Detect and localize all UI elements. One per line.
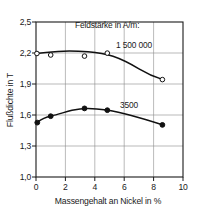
series-1500000-point-1 [48,53,53,58]
series-3500-point-3 [105,108,110,113]
x-ticklabel-2: 2 [63,182,68,192]
y-ticklabel-2.2: 2,2 [20,48,32,58]
series-1500000-point-2 [82,54,87,59]
series-3500-label: 3500 [120,100,139,110]
series-1500000-point-3 [105,51,110,56]
flux-density-nickel-chart: 2,5 2,2 1,9 1,6 1,3 1,0 0 2 4 6 8 10 Mas… [0,0,202,213]
chart-figure: 2,5 2,2 1,9 1,6 1,3 1,0 0 2 4 6 8 10 Mas… [0,0,202,213]
x-axis-title: Massengehalt an Nickel in % [55,196,162,206]
series-3500-point-0 [35,120,40,125]
series-3500-point-1 [48,114,53,119]
x-ticklabel-0: 0 [34,182,39,192]
y-ticklabel-2.5: 2,5 [20,17,32,27]
series-1500000-label: 1 500 000 [116,40,152,50]
y-ticklabel-1.6: 1,6 [20,110,32,120]
y-ticklabel-1.3: 1,3 [20,141,32,151]
x-ticklabel-10: 10 [178,182,188,192]
x-ticklabel-4: 4 [93,182,98,192]
series-1500000-point-0 [35,51,40,56]
y-axis-title: Flußdichte in T [5,72,15,127]
x-ticklabel-8: 8 [151,182,156,192]
series-3500-point-2 [82,106,87,111]
series-3500-point-4 [160,123,165,128]
legend-title: Feldstärke in A/m: [75,20,139,30]
y-ticklabel-1.9: 1,9 [20,79,32,89]
x-ticklabel-6: 6 [122,182,127,192]
y-ticklabel-1.0: 1,0 [20,172,32,182]
series-1500000-point-4 [160,77,165,82]
